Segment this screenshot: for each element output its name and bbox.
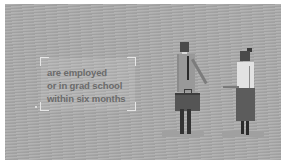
woman-right-leg xyxy=(246,121,249,135)
caption-box: are employed or in grad school within si… xyxy=(41,58,135,110)
corner-bracket xyxy=(127,102,136,111)
woman-blouse-shadow xyxy=(249,66,250,88)
man-left-leg xyxy=(180,109,184,134)
caption-line-2: or in grad school xyxy=(47,80,122,91)
man-tie xyxy=(187,56,189,80)
decorative-dot xyxy=(35,106,37,108)
corner-bracket xyxy=(127,57,136,66)
briefcase-handle xyxy=(184,89,192,94)
video-frame: are employed or in grad school within si… xyxy=(5,4,281,160)
caption-line-3: within six months xyxy=(47,93,126,104)
woman-head xyxy=(240,51,250,61)
man-right-leg xyxy=(187,109,191,134)
woman-blouse xyxy=(237,62,254,88)
man-head xyxy=(180,42,189,52)
caption-line-1: are employed xyxy=(47,67,107,78)
corner-bracket xyxy=(40,57,49,66)
woman-skirt xyxy=(236,88,255,121)
woman-left-leg xyxy=(241,121,244,134)
